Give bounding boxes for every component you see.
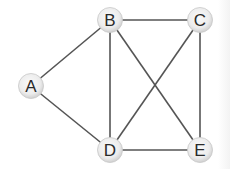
node-d: D xyxy=(98,138,123,163)
node-b: B xyxy=(98,8,123,33)
nodes-group: ABCDE xyxy=(19,8,213,163)
node-label: B xyxy=(104,11,115,30)
node-label: E xyxy=(194,141,205,160)
node-label: D xyxy=(104,141,116,160)
node-a: A xyxy=(19,74,44,99)
edge-a-b xyxy=(31,20,110,86)
edges-group xyxy=(31,20,200,150)
graph-diagram: ABCDE xyxy=(0,0,230,169)
node-label: A xyxy=(25,77,37,96)
node-c: C xyxy=(188,8,213,33)
edge-a-d xyxy=(31,86,110,150)
graph-canvas: ABCDE xyxy=(0,0,230,169)
node-e: E xyxy=(188,138,213,163)
node-label: C xyxy=(194,11,206,30)
